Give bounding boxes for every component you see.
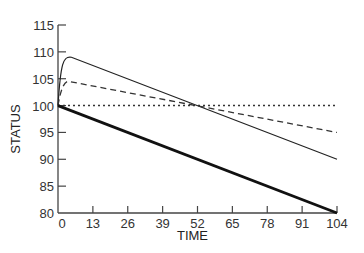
y-tick-label: 80 [40,206,54,221]
x-tick-label: 91 [295,216,309,231]
y-tick-label: 115 [33,18,54,33]
y-tick-label: 90 [40,152,54,167]
x-tick-label: 13 [86,216,100,231]
y-axis-label: STATUS [8,104,23,154]
x-axis-label: TIME [177,228,208,243]
x-tick-label: 78 [260,216,274,231]
line-chart: 80859095100105110115013263952657891104TI… [0,0,364,253]
series-thin-solid [58,57,337,159]
x-tick-label: 0 [58,216,65,231]
x-tick-label: 104 [326,216,348,231]
y-tick-label: 85 [40,179,54,194]
x-tick-label: 26 [121,216,135,231]
y-tick-label: 100 [32,99,54,114]
y-tick-label: 105 [32,72,54,87]
series-dashed [58,81,337,132]
x-tick-label: 39 [155,216,169,231]
x-tick-label: 65 [225,216,239,231]
y-tick-label: 95 [40,125,54,140]
series-thick-solid [58,106,337,213]
y-tick-label: 110 [33,45,54,60]
